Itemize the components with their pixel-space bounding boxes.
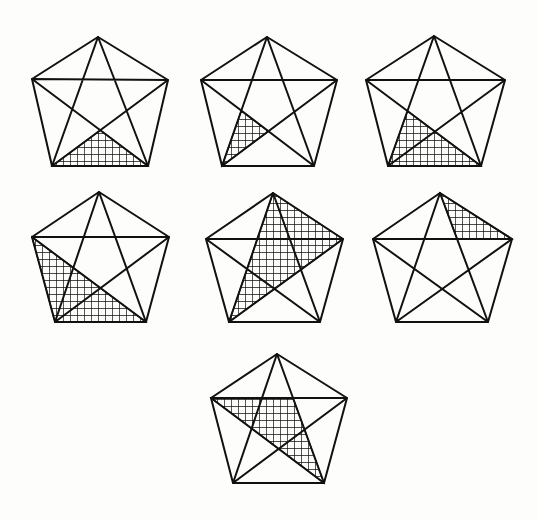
pentagon-3 <box>366 36 505 166</box>
pentagon-outline <box>373 193 512 322</box>
hatched-region <box>388 111 481 166</box>
pentagon-7 <box>211 354 347 483</box>
hatched-region <box>52 130 148 166</box>
pentagon-figure <box>0 0 538 519</box>
pentagon-2 <box>201 37 337 166</box>
pentagon-1 <box>32 37 168 166</box>
pentagon-6 <box>373 193 512 322</box>
pentagon-4 <box>32 192 169 322</box>
pentagram-diagonals <box>373 193 512 322</box>
pentagram-diagonals <box>201 37 337 166</box>
pentagon-outline <box>201 37 337 166</box>
pentagon-5 <box>206 193 343 322</box>
hatched-region <box>222 111 268 166</box>
